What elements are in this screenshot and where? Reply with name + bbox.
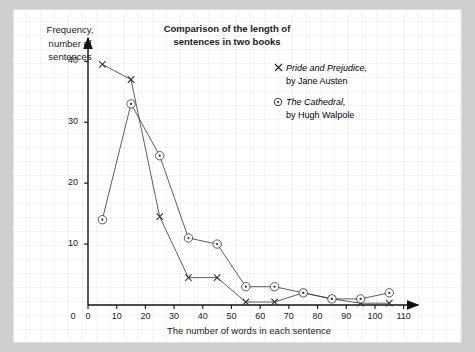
legend-item: Pride and Prejudice,by Jane Austen bbox=[270, 62, 367, 87]
x-tick-label: 90 bbox=[331, 311, 361, 321]
data-point-center bbox=[302, 292, 304, 294]
chart-plot-area bbox=[14, 10, 461, 342]
data-point-center bbox=[273, 286, 275, 288]
chart-figure: Comparison of the length of sentences in… bbox=[14, 10, 461, 342]
legend-item-subtitle: by Jane Austen bbox=[286, 76, 348, 86]
legend-item-text: The Cathedral,by Hugh Walpole bbox=[286, 96, 354, 121]
x-tick-label: 70 bbox=[274, 311, 304, 321]
x-marker-icon bbox=[270, 62, 286, 72]
data-point-center bbox=[216, 243, 218, 245]
y-tick-label: 10 bbox=[52, 238, 78, 248]
legend-item-title: The Cathedral, bbox=[286, 97, 346, 107]
x-tick-label: 50 bbox=[216, 311, 246, 321]
data-point-marker bbox=[157, 213, 163, 219]
y-tick-label: 20 bbox=[52, 177, 78, 187]
data-point-center bbox=[101, 219, 103, 221]
legend-item-text: Pride and Prejudice,by Jane Austen bbox=[286, 62, 367, 87]
y-origin-label: 0 bbox=[58, 311, 88, 321]
data-point-marker bbox=[99, 61, 105, 67]
legend-item: The Cathedral,by Hugh Walpole bbox=[270, 96, 367, 121]
x-tick-label: 20 bbox=[130, 311, 160, 321]
x-tick-label: 60 bbox=[245, 311, 275, 321]
data-point-marker bbox=[128, 76, 134, 82]
x-tick-label: 110 bbox=[389, 311, 419, 321]
data-point-center bbox=[130, 103, 132, 105]
data-point-center bbox=[159, 155, 161, 157]
x-tick-label: 100 bbox=[360, 311, 390, 321]
legend-item-subtitle: by Hugh Walpole bbox=[286, 110, 354, 120]
chart-axes bbox=[88, 38, 418, 305]
data-point-center bbox=[187, 237, 189, 239]
data-point-center bbox=[388, 292, 390, 294]
chart-legend: Pride and Prejudice,by Jane Austen The C… bbox=[270, 62, 367, 130]
x-tick-label: 80 bbox=[303, 311, 333, 321]
y-tick-label: 30 bbox=[52, 116, 78, 126]
x-tick-label: 30 bbox=[159, 311, 189, 321]
x-tick-label: 40 bbox=[188, 311, 218, 321]
chart-series bbox=[98, 100, 393, 303]
x-tick-label: 10 bbox=[102, 311, 132, 321]
legend-item-title: Pride and Prejudice, bbox=[286, 63, 367, 73]
y-tick-label: 40 bbox=[52, 55, 78, 65]
data-point-center bbox=[331, 298, 333, 300]
data-point-center bbox=[360, 298, 362, 300]
circle-dot-marker-icon bbox=[270, 96, 286, 107]
data-point-center bbox=[245, 286, 247, 288]
